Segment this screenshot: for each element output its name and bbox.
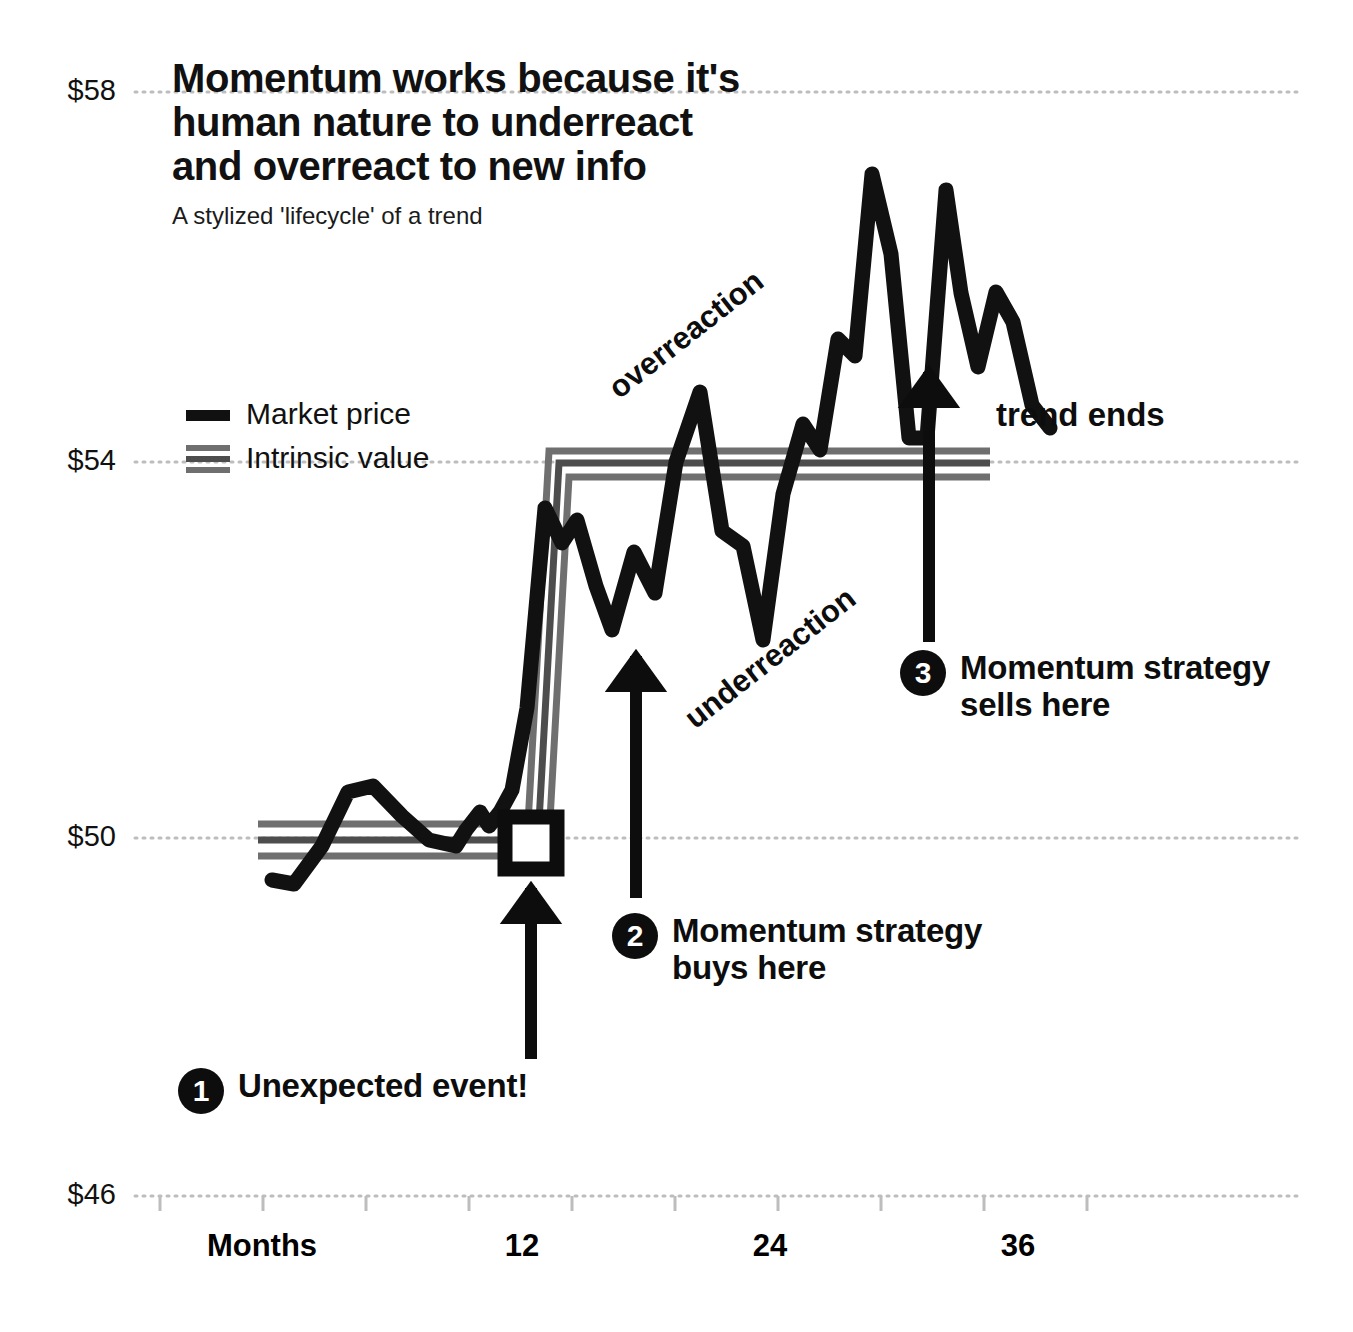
title-block: Momentum works because it's human nature… bbox=[172, 56, 832, 230]
market-price-swatch-icon bbox=[186, 399, 230, 429]
chart-title-line-3: and overreact to new info bbox=[172, 144, 647, 188]
y-tick-label-58: $58 bbox=[36, 74, 116, 107]
chart-subtitle: A stylized 'lifecycle' of a trend bbox=[172, 202, 832, 230]
chart-title-line-2: human nature to underreact bbox=[172, 100, 693, 144]
unexpected-event-marker bbox=[505, 817, 557, 869]
legend-item-intrinsic-value: Intrinsic value bbox=[186, 436, 429, 480]
callout-1-badge: 1 bbox=[178, 1068, 224, 1114]
x-tick-label-24: 24 bbox=[700, 1228, 840, 1264]
callout-2-badge: 2 bbox=[612, 913, 658, 959]
gridlines bbox=[135, 92, 1300, 1196]
callout-3-badge: 3 bbox=[900, 650, 946, 696]
y-tick-label-50: $50 bbox=[36, 820, 116, 853]
callout-1-text: Unexpected event! bbox=[238, 1068, 528, 1105]
x-axis-title: Months bbox=[152, 1228, 372, 1264]
callout-3: 3 Momentum strategy sells here bbox=[900, 650, 1270, 724]
trend-ends-label: trend ends bbox=[996, 396, 1165, 434]
x-tick-label-36: 36 bbox=[948, 1228, 1088, 1264]
intrinsic-value-line bbox=[258, 451, 990, 856]
x-tick-label-12: 12 bbox=[452, 1228, 592, 1264]
callout-1: 1 Unexpected event! bbox=[178, 1068, 528, 1114]
callout-2-text: Momentum strategy buys here bbox=[672, 913, 982, 987]
legend-label-market-price: Market price bbox=[246, 397, 411, 431]
y-tick-label-46: $46 bbox=[36, 1178, 116, 1211]
intrinsic-value-swatch-icon bbox=[186, 443, 230, 473]
chart-title-line-1: Momentum works because it's bbox=[172, 56, 740, 100]
y-tick-label-54: $54 bbox=[36, 444, 116, 477]
chart-root: $58 $54 $50 $46 Months 12 24 36 Momentum… bbox=[0, 0, 1353, 1332]
intrinsic-value-line-lower bbox=[258, 477, 990, 856]
callout-3-text: Momentum strategy sells here bbox=[960, 650, 1270, 724]
legend-label-intrinsic-value: Intrinsic value bbox=[246, 441, 429, 475]
x-axis-ticks bbox=[160, 1196, 1087, 1211]
intrinsic-value-line-upper bbox=[258, 451, 990, 824]
chart-title: Momentum works because it's human nature… bbox=[172, 56, 832, 188]
callout-2: 2 Momentum strategy buys here bbox=[612, 913, 982, 987]
chart-legend: Market price Intrinsic value bbox=[186, 392, 429, 480]
legend-item-market-price: Market price bbox=[186, 392, 429, 436]
